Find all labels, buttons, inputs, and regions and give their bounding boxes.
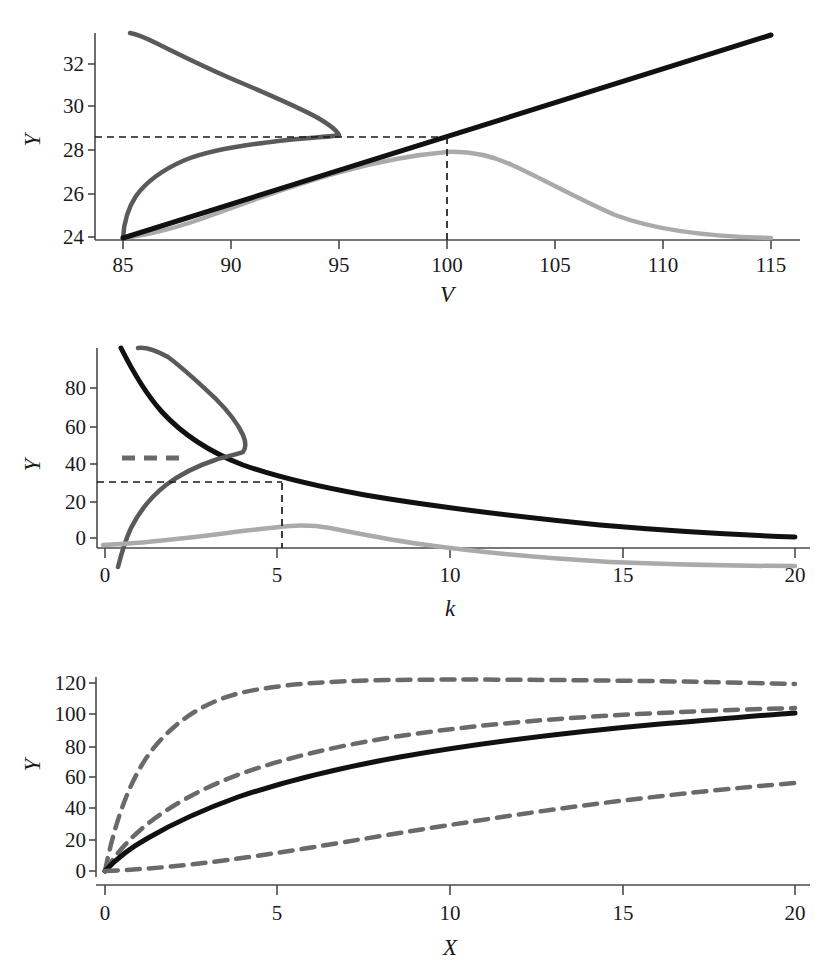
panel-1-xtick-label: 100 — [431, 253, 463, 277]
panel-1-ytick-label: 24 — [63, 225, 85, 249]
panel-1-ytick-label: 32 — [63, 52, 84, 76]
panel-3-ytick-label: 120 — [55, 671, 87, 695]
panel-3-upper-dashed-curve — [105, 680, 795, 871]
panel-1-y-axis-title: Y — [20, 131, 45, 146]
panel-2-xtick-label: 10 — [440, 563, 461, 587]
panel-1-xtick-label: 105 — [539, 253, 571, 277]
panel-3-xtick-label: 20 — [785, 901, 806, 925]
figure-container: Y 24 26 28 30 32 85 90 — [0, 0, 824, 973]
panel-2-x-axis-title: k — [445, 596, 456, 621]
panel-2-xtick-label: 0 — [100, 563, 111, 587]
panel-3-xtick-label: 0 — [100, 901, 111, 925]
panel-2-ytick-label: 80 — [65, 376, 86, 400]
panel-3-ytick-label: 40 — [65, 796, 86, 820]
panel-2-xtick-label: 15 — [613, 563, 634, 587]
panel-3-ytick-label: 20 — [65, 828, 86, 852]
panel-1-xtick-label: 85 — [113, 253, 134, 277]
panel-1-xtick-label: 110 — [648, 253, 679, 277]
panel-2-svg: Y 0 20 40 60 80 0 5 10 15 20 k — [0, 320, 824, 640]
panel-3-xtick-label: 15 — [613, 901, 634, 925]
panel-2-ytick-label: 0 — [76, 526, 87, 550]
panel-1-svg: Y 24 26 28 30 32 85 90 — [0, 0, 824, 320]
panel-1-ytick-label: 28 — [63, 138, 84, 162]
panel-2-ytick-label: 60 — [65, 415, 86, 439]
panel-3-x-axis-title: X — [442, 935, 458, 960]
panel-3-lower-dashed-curve — [105, 783, 795, 871]
panel-3-ytick-label: 0 — [76, 859, 87, 883]
panel-3-ytick-label: 100 — [55, 702, 87, 726]
panel-1-ytick-label: 26 — [63, 182, 84, 206]
chart-panel-x: Y 0 20 40 60 80 100 120 0 5 10 1 — [0, 640, 824, 973]
panel-2-black-curve — [121, 348, 795, 537]
panel-2-xtick-label: 5 — [272, 563, 283, 587]
panel-1-xtick-label: 95 — [329, 253, 350, 277]
panel-2-ytick-label: 20 — [65, 490, 86, 514]
panel-3-xtick-label: 5 — [272, 901, 283, 925]
panel-1-xtick-label: 90 — [221, 253, 242, 277]
panel-3-y-axis-title: Y — [20, 756, 45, 771]
panel-3-svg: Y 0 20 40 60 80 100 120 0 5 10 1 — [0, 640, 824, 973]
chart-panel-k: Y 0 20 40 60 80 0 5 10 15 20 k — [0, 320, 824, 640]
chart-panel-v: Y 24 26 28 30 32 85 90 — [0, 0, 824, 320]
panel-3-xtick-label: 10 — [440, 901, 461, 925]
panel-1-x-axis-title: V — [440, 282, 457, 307]
panel-3-ytick-label: 80 — [65, 735, 86, 759]
panel-3-middle-dashed-curve — [105, 708, 795, 871]
panel-2-y-axis-title: Y — [20, 456, 45, 471]
panel-2-ytick-label: 40 — [65, 452, 86, 476]
panel-1-ytick-label: 30 — [63, 94, 84, 118]
panel-1-xtick-label: 115 — [756, 253, 787, 277]
panel-3-ytick-label: 60 — [65, 765, 86, 789]
